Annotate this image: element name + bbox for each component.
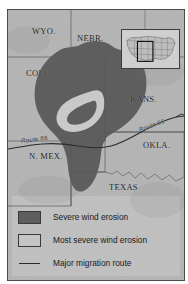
state-label-colorado: COLO. xyxy=(26,68,53,78)
dust-bowl-map-figure: WYO. NEBR. COLO. KANS. OKLA. N. MEX. TEX… xyxy=(0,0,188,284)
state-label-wyoming: WYO. xyxy=(32,26,56,36)
legend-item-most-severe-erosion: Most severe wind erosion xyxy=(18,232,147,248)
legend-label-migration-route: Major migration route xyxy=(53,258,131,268)
map-legend: Severe wind erosion Most severe wind ero… xyxy=(18,206,176,276)
legend-label-most-severe-erosion: Most severe wind erosion xyxy=(53,235,147,245)
legend-swatch-migration-route xyxy=(18,257,41,270)
state-label-nebraska: NEBR. xyxy=(77,33,103,43)
legend-swatch-severe-erosion xyxy=(18,211,41,224)
state-label-oklahoma: OKLA. xyxy=(143,140,170,150)
legend-swatch-most-severe-erosion xyxy=(18,234,41,247)
state-label-texas: TEXAS xyxy=(109,182,138,192)
legend-label-severe-erosion: Severe wind erosion xyxy=(53,212,128,222)
inset-us-map xyxy=(122,30,179,68)
united-states-locator-inset xyxy=(121,29,180,69)
state-label-kansas: KANS. xyxy=(130,94,157,104)
map-frame: WYO. NEBR. COLO. KANS. OKLA. N. MEX. TEX… xyxy=(7,9,185,281)
state-label-new-mexico: N. MEX. xyxy=(29,151,63,161)
legend-item-severe-erosion: Severe wind erosion xyxy=(18,209,128,225)
legend-item-migration-route: Major migration route xyxy=(18,255,131,271)
